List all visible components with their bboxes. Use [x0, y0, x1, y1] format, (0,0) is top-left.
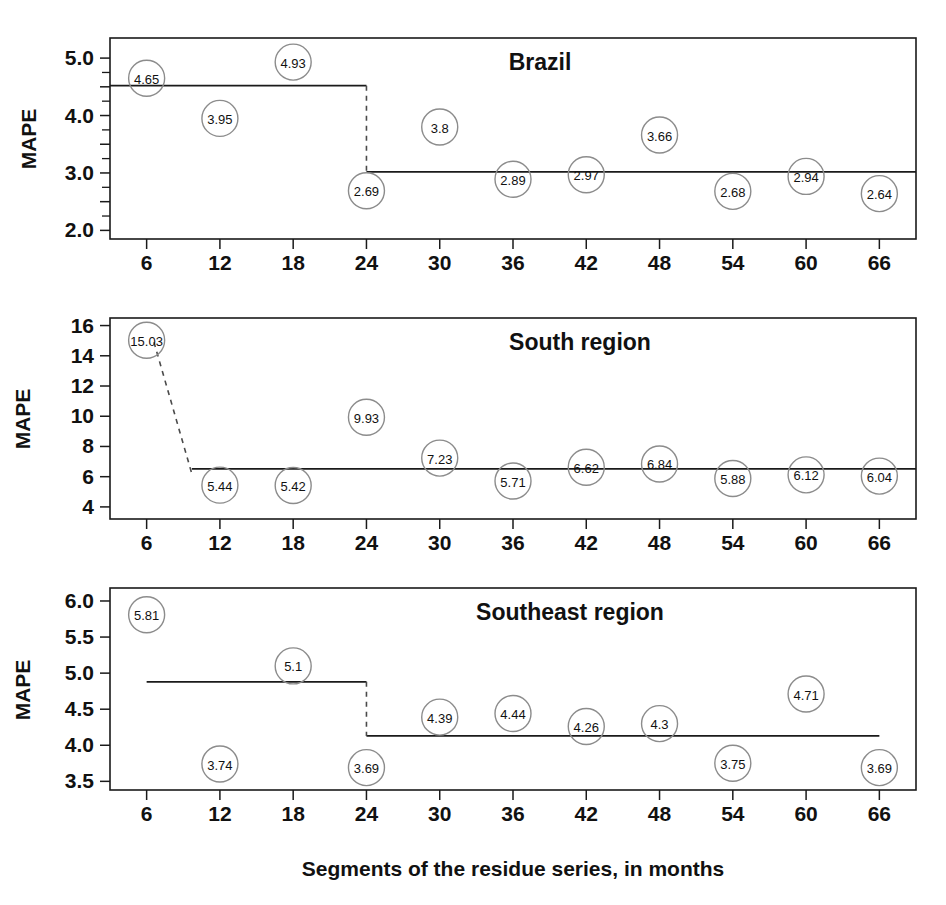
x-tick-label: 24 — [355, 802, 379, 825]
x-tick-label: 12 — [208, 531, 231, 554]
data-point: 4.39 — [422, 699, 458, 735]
y-tick-label: 14 — [71, 344, 95, 367]
data-point: 2.89 — [495, 161, 531, 197]
x-tick-label: 66 — [868, 802, 891, 825]
x-tick-label: 18 — [282, 251, 306, 274]
data-point: 5.42 — [275, 467, 311, 503]
x-tick-label: 6 — [141, 802, 153, 825]
x-tick-label: 42 — [575, 802, 598, 825]
data-point: 3.8 — [422, 109, 458, 145]
data-point-label: 3.74 — [207, 758, 232, 773]
data-point-label: 5.1 — [284, 659, 302, 674]
data-point: 3.74 — [202, 746, 238, 782]
x-tick-label: 12 — [208, 251, 231, 274]
data-point-label: 6.84 — [647, 457, 672, 472]
data-point-label: 3.95 — [207, 112, 232, 127]
data-point: 15.03 — [129, 322, 165, 358]
data-point: 3.69 — [348, 750, 384, 786]
y-tick-label: 12 — [71, 374, 94, 397]
y-tick-label: 3.5 — [65, 769, 95, 792]
x-tick-label: 30 — [428, 251, 451, 274]
data-point: 2.94 — [788, 158, 824, 194]
data-point-label: 5.71 — [500, 475, 525, 490]
data-point: 5.44 — [202, 467, 238, 503]
x-tick-label: 6 — [141, 531, 153, 554]
y-axis-title: MAPE — [11, 660, 34, 721]
y-tick-label: 4.0 — [65, 733, 94, 756]
data-point-label: 2.89 — [500, 173, 525, 188]
data-point-label: 6.62 — [574, 461, 599, 476]
data-point: 2.68 — [715, 173, 751, 209]
x-tick-label: 54 — [721, 251, 745, 274]
data-point-label: 3.69 — [354, 761, 379, 776]
data-point-label: 9.93 — [354, 411, 379, 426]
data-point: 3.95 — [202, 100, 238, 136]
y-tick-label: 8 — [82, 434, 94, 457]
data-point-label: 5.88 — [720, 472, 745, 487]
x-tick-label: 6 — [141, 251, 153, 274]
data-point: 5.81 — [129, 597, 165, 633]
data-point: 4.26 — [568, 709, 604, 745]
data-point-label: 5.81 — [134, 608, 159, 623]
x-tick-label: 60 — [794, 802, 817, 825]
data-point-label: 15.03 — [130, 334, 163, 349]
y-tick-label: 5.0 — [65, 46, 94, 69]
x-tick-label: 30 — [428, 531, 451, 554]
y-tick-label: 2.0 — [65, 218, 94, 241]
data-point-label: 2.69 — [354, 184, 379, 199]
y-axis-title: MAPE — [11, 389, 34, 450]
x-tick-label: 60 — [794, 251, 817, 274]
x-tick-label: 12 — [208, 802, 231, 825]
y-tick-label: 4 — [82, 495, 94, 518]
data-point-label: 2.64 — [867, 187, 892, 202]
data-point: 3.75 — [715, 745, 751, 781]
panel-1: 2.03.04.05.06121824303642485460664.653.9… — [17, 38, 916, 274]
data-point-label: 4.3 — [651, 717, 669, 732]
panel-title: Brazil — [509, 49, 572, 75]
data-point: 4.44 — [495, 696, 531, 732]
data-point-label: 2.68 — [720, 185, 745, 200]
x-tick-label: 48 — [648, 802, 672, 825]
x-tick-label: 36 — [501, 251, 524, 274]
data-point: 2.64 — [861, 176, 897, 212]
x-tick-label: 48 — [648, 251, 672, 274]
x-tick-label: 36 — [501, 531, 524, 554]
data-point: 5.1 — [275, 648, 311, 684]
x-tick-label: 18 — [282, 802, 306, 825]
data-point-label: 3.75 — [720, 757, 745, 772]
x-tick-label: 42 — [575, 531, 598, 554]
y-tick-label: 6 — [82, 465, 94, 488]
data-point: 6.12 — [788, 457, 824, 493]
data-point: 7.23 — [422, 440, 458, 476]
data-point-label: 3.8 — [431, 121, 449, 136]
data-point: 4.3 — [642, 706, 678, 742]
x-tick-label: 54 — [721, 531, 745, 554]
y-axis-title: MAPE — [17, 109, 40, 170]
x-tick-label: 60 — [794, 531, 817, 554]
data-point-label: 5.42 — [281, 479, 306, 494]
data-point-label: 6.12 — [793, 468, 818, 483]
y-tick-label: 5.0 — [65, 661, 94, 684]
data-point-label: 4.71 — [793, 688, 818, 703]
y-tick-label: 4.5 — [65, 697, 95, 720]
data-point-label: 3.69 — [867, 761, 892, 776]
x-tick-label: 30 — [428, 802, 451, 825]
data-point: 3.66 — [642, 117, 678, 153]
data-point: 4.65 — [129, 60, 165, 96]
data-point: 2.69 — [348, 173, 384, 209]
data-point: 5.88 — [715, 460, 751, 496]
x-tick-label: 18 — [282, 531, 306, 554]
x-tick-label: 54 — [721, 802, 745, 825]
data-point: 6.62 — [568, 449, 604, 485]
panel-3: 3.54.04.55.05.56.06121824303642485460665… — [11, 588, 916, 825]
segmented-mape-chart: 2.03.04.05.06121824303642485460664.653.9… — [0, 0, 946, 905]
data-point-label: 2.97 — [574, 168, 599, 183]
x-axis-title: Segments of the residue series, in month… — [302, 857, 724, 880]
panel-title: South region — [509, 329, 651, 355]
x-tick-label: 48 — [648, 531, 672, 554]
x-tick-label: 36 — [501, 802, 524, 825]
data-point-label: 4.44 — [500, 707, 525, 722]
panel-2: 4681012141661218243036424854606615.035.4… — [11, 314, 916, 554]
data-point: 5.71 — [495, 463, 531, 499]
x-tick-label: 66 — [868, 531, 891, 554]
